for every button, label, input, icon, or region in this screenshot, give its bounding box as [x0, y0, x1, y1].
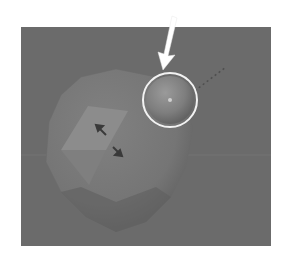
3d-viewport[interactable]	[21, 27, 271, 246]
origin-dot-icon	[168, 98, 172, 102]
selected-sphere-object[interactable]	[143, 73, 197, 127]
viewport-canvas[interactable]	[21, 27, 271, 246]
